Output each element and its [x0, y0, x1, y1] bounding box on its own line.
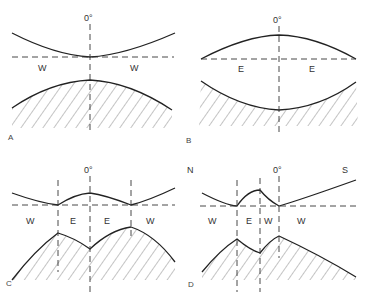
upper-curve: [201, 35, 356, 59]
region-label: E: [246, 216, 252, 226]
region-label: W: [297, 216, 306, 226]
region-label: W: [146, 216, 155, 226]
region-label: E: [104, 216, 110, 226]
diagram-canvas: 0° W W A 0° E E B 0° W E E W C: [0, 0, 367, 299]
angle-label: 0°: [273, 15, 282, 25]
region-label: E: [70, 216, 76, 226]
panel-a: 0° W W A: [8, 13, 175, 142]
panel-label: B: [186, 136, 191, 145]
north-label: N: [187, 165, 194, 175]
panel-label: D: [188, 280, 194, 289]
south-label: S: [342, 165, 348, 175]
upper-curve: [12, 33, 175, 57]
upper-curve: [202, 180, 356, 206]
angle-label: 0°: [84, 13, 93, 23]
hatched-region: [199, 81, 358, 126]
region-label: W: [264, 216, 273, 226]
panel-label: C: [6, 279, 12, 288]
hatched-region: [12, 80, 172, 128]
region-label: E: [309, 64, 315, 74]
panel-c: 0° W E E W C: [6, 165, 175, 292]
panel-label: A: [8, 133, 14, 142]
upper-curve: [12, 188, 175, 205]
region-label: W: [38, 63, 47, 73]
angle-label: 0°: [273, 165, 282, 175]
region-label: W: [208, 216, 217, 226]
panel-b: 0° E E B: [186, 15, 358, 145]
region-label: E: [238, 64, 244, 74]
angle-label: 0°: [84, 165, 93, 175]
hatched-region: [12, 227, 175, 280]
region-label: W: [130, 63, 139, 73]
panel-d: 0° N S W E W W D: [187, 165, 356, 292]
region-label: W: [26, 216, 35, 226]
